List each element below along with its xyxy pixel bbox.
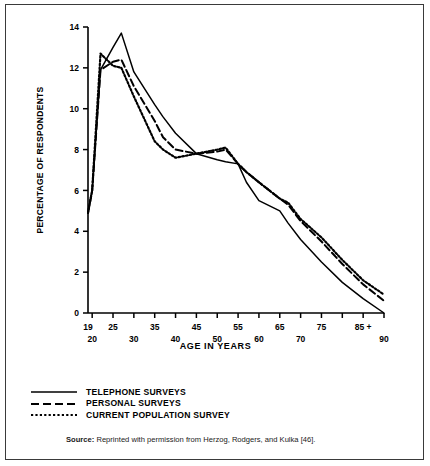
x-tick-label-top: 35 (150, 322, 160, 332)
legend-item-personal: PERSONAL SURVEYS (30, 398, 410, 410)
source-text: Reprinted with permission from Herzog, R… (96, 435, 315, 444)
axes (88, 27, 384, 313)
series-line-1 (88, 60, 384, 301)
y-tick-label: 0 (74, 308, 79, 318)
legend: TELEPHONE SURVEYS PERSONAL SURVEYS CURRE… (30, 386, 410, 421)
y-axis-tick-labels: 02468101214 (70, 22, 80, 318)
source-prefix: Source: (66, 435, 94, 444)
y-tick-label: 4 (74, 226, 79, 236)
y-tick-label: 2 (74, 267, 79, 277)
plot-area: PERCENTAGE OF RESPONDENTS 02468101214 19… (6, 5, 423, 365)
x-tick-label-top: 65 (275, 322, 285, 332)
x-tick-label-top: 85 + (355, 322, 372, 332)
series-line-0 (88, 33, 384, 313)
legend-swatch-solid-icon (30, 386, 78, 397)
y-tick-label: 8 (74, 145, 79, 155)
y-tick-label: 12 (70, 63, 80, 73)
x-tick-label-top: 25 (108, 322, 118, 332)
chart-svg: 02468101214 1925354555657585 + 203040506… (6, 5, 425, 365)
x-tick-label-top: 75 (317, 322, 327, 332)
series-line-2 (88, 54, 384, 295)
legend-item-cps: CURRENT POPULATION SURVEY (30, 409, 410, 421)
figure-container: PERCENTAGE OF RESPONDENTS 02468101214 19… (5, 4, 424, 460)
legend-label-cps: CURRENT POPULATION SURVEY (86, 410, 230, 420)
data-series-group (88, 33, 384, 313)
legend-swatch-dashed-icon (30, 398, 78, 409)
x-axis-tick-labels-top: 1925354555657585 + (83, 322, 371, 332)
legend-label-personal: PERSONAL SURVEYS (86, 398, 181, 408)
y-tick-label: 14 (70, 22, 80, 32)
x-tick-label-top: 55 (233, 322, 243, 332)
x-tick-label-top: 19 (83, 322, 93, 332)
legend-item-telephone: TELEPHONE SURVEYS (30, 386, 410, 398)
source-note: Source: Reprinted with permission from H… (66, 435, 315, 444)
x-axis-label: AGE IN YEARS (6, 341, 425, 351)
y-tick-label: 10 (70, 104, 80, 114)
legend-label-telephone: TELEPHONE SURVEYS (86, 387, 186, 397)
y-tick-label: 6 (74, 186, 79, 196)
x-tick-label-top: 45 (192, 322, 202, 332)
legend-swatch-dotted-icon (30, 409, 78, 420)
